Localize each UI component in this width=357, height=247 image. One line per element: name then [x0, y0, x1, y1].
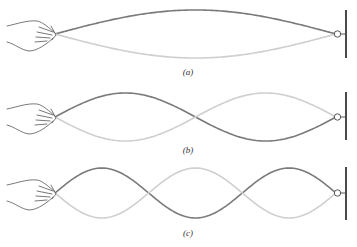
- hand-icon: [7, 21, 56, 51]
- standing-wave-figure: (a) (b) (c): [0, 0, 357, 247]
- ring-icon: [334, 31, 340, 37]
- ring-icon: [334, 114, 340, 120]
- panel-c: (c): [7, 167, 346, 238]
- panel-caption: (b): [183, 145, 194, 155]
- hand-icon: [7, 180, 56, 210]
- panel-caption: (c): [183, 228, 193, 238]
- panel-a: (a): [7, 10, 346, 77]
- panel-caption: (a): [183, 67, 194, 77]
- string-envelope-light: [55, 34, 336, 58]
- string-envelope-light: [55, 93, 336, 141]
- ring-icon: [334, 190, 340, 196]
- hand-icon: [7, 104, 56, 134]
- string-envelope-light: [55, 168, 336, 218]
- string-envelope-dark: [55, 10, 336, 34]
- string-envelope-dark: [55, 168, 336, 218]
- panel-b: (b): [7, 92, 346, 155]
